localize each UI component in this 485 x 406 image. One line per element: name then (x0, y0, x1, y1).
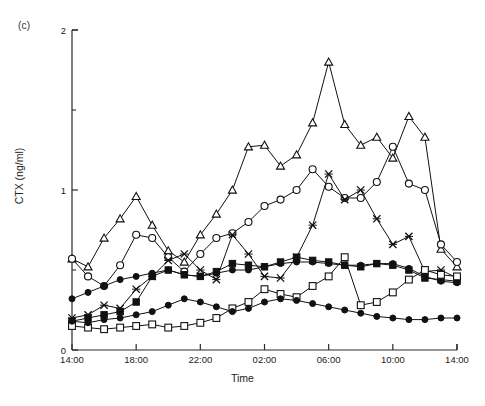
marker-open-triangle (132, 192, 140, 199)
marker-filled-circle (133, 312, 139, 318)
marker-open-triangle (84, 263, 92, 270)
marker-filled-circle (422, 317, 428, 323)
marker-open-square (325, 273, 332, 280)
marker-open-triangle (293, 151, 301, 158)
marker-open-circle (117, 262, 124, 269)
marker-filled-circle (117, 277, 123, 283)
marker-open-circle (357, 195, 364, 202)
marker-filled-circle (117, 315, 123, 321)
panel-label: (c) (18, 20, 30, 31)
marker-filled-circle (406, 317, 412, 323)
marker-open-circle (454, 259, 461, 266)
marker-open-square (438, 271, 445, 278)
marker-filled-circle (133, 273, 139, 279)
marker-filled-square (165, 267, 171, 273)
marker-filled-circle (181, 296, 187, 302)
marker-filled-circle (229, 309, 235, 315)
marker-open-square (389, 289, 396, 296)
marker-open-circle (373, 179, 380, 186)
marker-open-triangle (309, 119, 317, 126)
marker-open-triangle (228, 186, 236, 193)
marker-filled-square (374, 260, 380, 266)
marker-filled-circle (69, 318, 75, 324)
marker-open-square (357, 302, 364, 309)
marker-filled-square (117, 308, 123, 314)
marker-open-circle (277, 196, 284, 203)
marker-filled-square (261, 264, 267, 270)
marker-open-square (373, 299, 380, 306)
marker-open-square (261, 286, 268, 293)
y-tick-label: 1 (44, 185, 66, 196)
marker-filled-square (277, 259, 283, 265)
marker-open-circle (309, 166, 316, 173)
marker-filled-circle (197, 299, 203, 305)
marker-open-circle (133, 231, 140, 238)
marker-filled-circle (326, 304, 332, 310)
marker-open-square (422, 267, 429, 274)
marker-filled-circle (149, 309, 155, 315)
marker-open-circle (213, 235, 220, 242)
marker-open-square (101, 326, 108, 333)
marker-open-triangle (180, 258, 188, 265)
marker-filled-circle (374, 313, 380, 319)
marker-filled-square (309, 257, 315, 263)
marker-open-square (213, 315, 220, 322)
marker-filled-square (245, 262, 251, 268)
marker-open-circle (437, 241, 444, 248)
marker-open-triangle (164, 247, 172, 254)
marker-open-square (149, 321, 156, 328)
marker-open-triangle (341, 120, 349, 127)
marker-open-triangle (148, 221, 156, 228)
marker-open-circle (421, 187, 428, 194)
series-subject-7 (69, 296, 460, 326)
marker-open-triangle (325, 58, 333, 65)
marker-filled-circle (85, 320, 91, 326)
marker-filled-circle (390, 315, 396, 321)
marker-open-triangle (405, 112, 413, 119)
y-tick-label: 2 (44, 25, 66, 36)
marker-open-square (341, 254, 348, 261)
x-tick-label: 18:00 (124, 354, 148, 365)
marker-filled-square (181, 272, 187, 278)
marker-open-square (405, 276, 412, 283)
marker-open-circle (261, 203, 268, 210)
marker-filled-circle (101, 283, 107, 289)
marker-filled-square (358, 264, 364, 270)
marker-filled-circle (310, 301, 316, 307)
marker-filled-square (406, 267, 412, 273)
marker-filled-square (390, 262, 396, 268)
marker-open-circle (405, 180, 412, 187)
marker-filled-circle (294, 297, 300, 303)
y-axis-label: CTX (ng/ml) (13, 131, 25, 221)
marker-open-circle (85, 273, 92, 280)
marker-open-square (454, 273, 461, 280)
marker-open-circle (245, 219, 252, 226)
marker-filled-square (133, 299, 139, 305)
marker-filled-circle (101, 317, 107, 323)
marker-filled-circle (438, 315, 444, 321)
marker-open-triangle (373, 133, 381, 140)
marker-open-square (197, 319, 204, 326)
x-tick-label: 14:00 (445, 354, 469, 365)
marker-filled-square (213, 268, 219, 274)
marker-filled-circle (165, 302, 171, 308)
marker-open-circle (389, 143, 396, 150)
marker-filled-circle (454, 315, 460, 321)
marker-open-square (309, 283, 316, 290)
marker-open-triangle (261, 141, 269, 148)
x-tick-label: 02:00 (253, 354, 277, 365)
marker-filled-square (149, 273, 155, 279)
marker-filled-circle (342, 307, 348, 313)
marker-open-circle (325, 183, 332, 190)
marker-filled-circle (278, 296, 284, 302)
marker-open-circle (293, 187, 300, 194)
x-axis-label: Time (0, 372, 485, 384)
marker-filled-circle (69, 296, 75, 302)
marker-open-square (181, 323, 188, 330)
marker-open-triangle (116, 215, 124, 222)
marker-open-square (133, 323, 140, 330)
marker-open-square (165, 324, 172, 331)
marker-open-triangle (212, 210, 220, 217)
marker-filled-square (325, 259, 331, 265)
marker-open-circle (149, 235, 156, 242)
